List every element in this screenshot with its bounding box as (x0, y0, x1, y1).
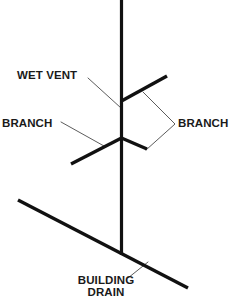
label-building-drain: BUILDING DRAIN (52, 274, 160, 298)
leader-lines-group (61, 78, 175, 278)
label-branch-left: BRANCH (2, 117, 52, 129)
upper-branch-pipe (122, 76, 168, 101)
wet-vent-leader-line (88, 78, 121, 108)
diagram-canvas (0, 0, 231, 303)
pipe-lines-group (18, 0, 188, 288)
branch-left-leader-line (61, 122, 104, 146)
branch-right-leader-lines (143, 92, 175, 150)
label-wet-vent: WET VENT (17, 69, 77, 81)
label-branch-right: BRANCH (178, 117, 228, 129)
lower-branch-right-pipe (122, 138, 148, 149)
wet-vent-diagram: WET VENT BRANCH BRANCH BUILDING DRAIN (0, 0, 231, 303)
label-building-drain-line1: BUILDING (78, 274, 134, 286)
label-building-drain-line2: DRAIN (52, 286, 160, 298)
